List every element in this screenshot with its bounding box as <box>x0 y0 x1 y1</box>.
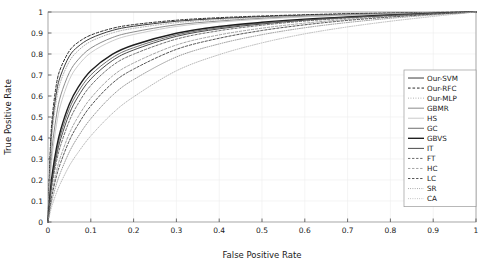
y-tick-label: 0.1 <box>31 197 43 206</box>
x-tick-label: 0.9 <box>427 226 439 235</box>
legend-label-our-rfc[interactable]: Our-RFC <box>427 84 456 93</box>
chart-legend[interactable]: Our-SVMOur-RFCOur-MLPGBMRHSGCGBVSITFTHCL… <box>404 70 476 207</box>
legend-label-gbvs[interactable]: GBVS <box>427 134 447 143</box>
y-tick-label: 0.7 <box>31 71 43 80</box>
y-tick-label: 0.9 <box>31 29 43 38</box>
x-tick-label: 1 <box>474 226 479 235</box>
legend-label-our-mlp[interactable]: Our-MLP <box>427 94 458 103</box>
x-axis-label: False Positive Rate <box>223 250 302 260</box>
x-tick-label: 0.3 <box>170 226 182 235</box>
legend-label-gc[interactable]: GC <box>427 124 438 133</box>
x-tick-label: 0.7 <box>342 226 354 235</box>
x-tick-label: 0.2 <box>128 226 140 235</box>
y-tick-label: 0.3 <box>31 155 43 164</box>
x-tick-label: 0.1 <box>85 226 97 235</box>
x-tick-label: 0.6 <box>299 226 311 235</box>
y-tick-label: 0.4 <box>31 134 43 143</box>
y-tick-label: 0.8 <box>31 50 43 59</box>
y-tick-label: 0 <box>38 218 43 227</box>
y-tick-label: 0.2 <box>31 176 43 185</box>
x-tick-label: 0 <box>46 226 51 235</box>
legend-label-it[interactable]: IT <box>427 144 434 153</box>
y-tick-label: 0.5 <box>31 113 43 122</box>
roc-chart-page: 00.10.20.30.40.50.60.70.80.9100.10.20.30… <box>0 0 496 270</box>
roc-chart: 00.10.20.30.40.50.60.70.80.9100.10.20.30… <box>0 0 496 270</box>
legend-label-gbmr[interactable]: GBMR <box>427 104 449 113</box>
x-tick-label: 0.4 <box>213 226 225 235</box>
legend-label-ft[interactable]: FT <box>427 154 436 163</box>
y-tick-label: 1 <box>38 8 43 17</box>
legend-label-sr[interactable]: SR <box>427 184 437 193</box>
legend-label-ca[interactable]: CA <box>427 194 437 203</box>
y-axis-label: True Positive Rate <box>3 79 13 156</box>
legend-label-hc[interactable]: HC <box>427 164 437 173</box>
legend-label-our-svm[interactable]: Our-SVM <box>427 74 458 83</box>
legend-label-lc[interactable]: LC <box>427 174 436 183</box>
x-tick-label: 0.8 <box>384 226 396 235</box>
x-tick-label: 0.5 <box>256 226 268 235</box>
y-tick-label: 0.6 <box>31 92 43 101</box>
legend-label-hs[interactable]: HS <box>427 114 437 123</box>
